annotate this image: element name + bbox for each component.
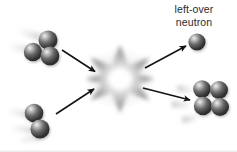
sphere <box>210 81 228 99</box>
label-line-2: neutron <box>155 16 233 29</box>
particle-cluster-incoming-top <box>10 27 59 65</box>
sphere <box>41 47 60 66</box>
particle-left-over-neutron <box>188 33 205 50</box>
arrow-outgoing-neutron <box>145 46 186 68</box>
arrow-incoming-top <box>62 50 95 72</box>
label-line-1: left-over <box>155 3 233 16</box>
particle-cluster-outgoing <box>172 80 229 123</box>
collision-starburst <box>84 45 156 113</box>
sphere <box>30 119 49 138</box>
sphere <box>211 98 229 116</box>
sphere <box>24 43 42 61</box>
starburst-core <box>109 70 131 89</box>
nuclear-reaction-figure: left-over neutron <box>0 0 237 152</box>
sphere <box>193 80 211 98</box>
arrow-incoming-bottom <box>56 89 94 114</box>
sphere <box>188 33 205 50</box>
left-over-neutron-label: left-over neutron <box>155 3 233 28</box>
particle-cluster-incoming-bottom <box>8 104 50 142</box>
sphere <box>39 31 58 50</box>
sphere <box>194 97 212 115</box>
